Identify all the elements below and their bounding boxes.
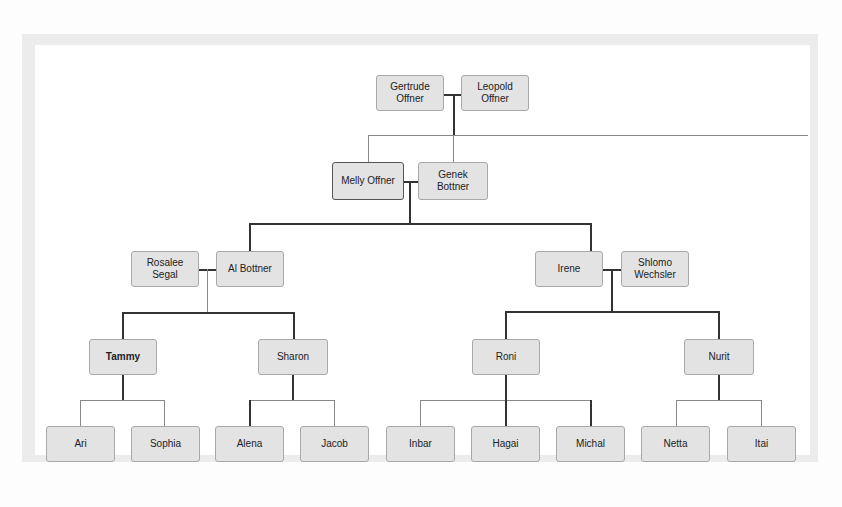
branch-line [676, 400, 762, 401]
branch-line [122, 312, 294, 314]
person-michal[interactable]: Michal [556, 426, 625, 462]
descent-line [718, 375, 720, 401]
person-melly-offner[interactable]: Melly Offner [332, 162, 404, 200]
branch-line [80, 400, 165, 401]
person-jacob[interactable]: Jacob [300, 426, 369, 462]
branch-line [718, 311, 720, 339]
person-shlomo-wechsler[interactable]: Shlomo Wechsler [621, 251, 689, 287]
branch-line [590, 400, 592, 427]
descent-line [611, 269, 613, 312]
branch-line [249, 400, 251, 427]
branch-line [334, 400, 335, 427]
branch-line [249, 223, 251, 253]
person-sharon[interactable]: Sharon [258, 339, 328, 375]
person-alena[interactable]: Alena [215, 426, 284, 462]
descent-line [122, 375, 124, 401]
branch-line [293, 312, 295, 339]
descent-line [409, 181, 411, 224]
branch-line [505, 311, 719, 313]
person-ari[interactable]: Ari [46, 426, 115, 462]
person-nurit[interactable]: Nurit [684, 339, 754, 375]
branch-line [368, 135, 808, 136]
branch-line [122, 312, 124, 339]
person-rosalee-segal[interactable]: Rosalee Segal [131, 251, 199, 287]
person-itai[interactable]: Itai [727, 426, 796, 462]
branch-line [505, 400, 507, 427]
person-leopold-offner[interactable]: Leopold Offner [461, 75, 529, 111]
branch-line [420, 400, 421, 427]
person-tammy[interactable]: Tammy [89, 339, 157, 375]
person-netta[interactable]: Netta [641, 426, 710, 462]
descent-line [292, 375, 294, 401]
branch-line [453, 135, 454, 162]
branch-line [80, 400, 81, 427]
person-irene[interactable]: Irene [535, 251, 603, 287]
descent-line [453, 94, 455, 136]
branch-line [164, 400, 165, 427]
descent-line [207, 269, 208, 313]
person-genek-bottner[interactable]: Genek Bottner [418, 162, 488, 200]
branch-line [590, 223, 592, 253]
person-al-bottner[interactable]: Al Bottner [216, 251, 284, 287]
marriage-line [404, 181, 418, 183]
branch-line [249, 400, 335, 401]
person-gertrude-offner[interactable]: Gertrude Offner [376, 75, 444, 111]
person-inbar[interactable]: Inbar [386, 426, 455, 462]
branch-line [368, 135, 369, 162]
person-roni[interactable]: Roni [472, 339, 540, 375]
branch-line [761, 400, 762, 427]
person-sophia[interactable]: Sophia [131, 426, 200, 462]
branch-line [505, 311, 507, 339]
branch-line [676, 400, 677, 427]
branch-line [249, 223, 591, 225]
descent-line [505, 375, 507, 401]
person-hagai[interactable]: Hagai [471, 426, 540, 462]
